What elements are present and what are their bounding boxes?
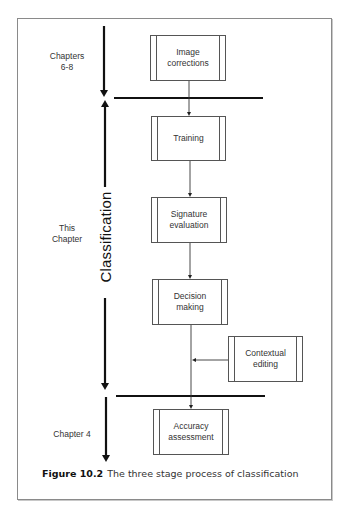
classification-title: Classification bbox=[97, 191, 114, 282]
stage-label-chapter-4: Chapter 4 bbox=[44, 429, 100, 440]
caption-text: The three stage process of classificatio… bbox=[107, 468, 298, 479]
box-label: Image corrections bbox=[167, 47, 209, 69]
stage-label-chapters-6-8: Chapters 6-8 bbox=[46, 51, 88, 73]
flow-connector-2 bbox=[188, 161, 192, 197]
box-accuracy-assessment: Accuracy assessment bbox=[153, 409, 229, 455]
box-label: Signature evaluation bbox=[170, 209, 209, 231]
flow-connector-3 bbox=[188, 243, 192, 279]
box-label: Contextual editing bbox=[245, 348, 286, 370]
stage-arrow-top bbox=[100, 26, 108, 97]
box-signature-evaluation: Signature evaluation bbox=[151, 197, 227, 243]
box-contextual-editing: Contextual editing bbox=[228, 336, 303, 382]
box-image-corrections: Image corrections bbox=[150, 35, 226, 81]
box-training: Training bbox=[151, 116, 226, 161]
figure-caption: Figure 10.2The three stage process of cl… bbox=[42, 468, 299, 479]
figure-number: Figure 10.2 bbox=[42, 468, 103, 479]
box-label: Decision making bbox=[174, 291, 207, 313]
box-decision-making: Decision making bbox=[152, 279, 228, 325]
stage-label-this-chapter: This Chapter bbox=[46, 223, 88, 245]
box-label: Accuracy assessment bbox=[168, 421, 213, 443]
box-label: Training bbox=[173, 133, 203, 144]
stage-arrow-bottom bbox=[102, 397, 110, 462]
flow-connector-contextual bbox=[192, 358, 228, 362]
